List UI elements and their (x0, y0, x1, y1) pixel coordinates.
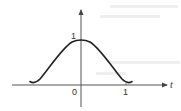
y-tick-label-1: 1 (71, 32, 76, 41)
figure: 1 0 1 t (0, 0, 181, 111)
chart-svg (0, 0, 181, 111)
x-axis-label: t (170, 80, 173, 90)
x-tick-label-1: 1 (123, 88, 128, 97)
x-tick-label-0: 0 (72, 88, 77, 97)
